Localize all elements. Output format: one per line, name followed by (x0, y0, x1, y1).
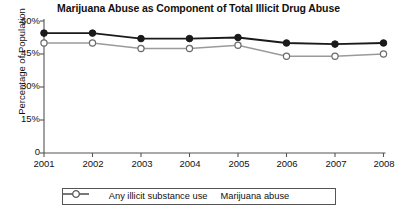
legend-label-marijuana-abuse: Marijuana abuse (220, 191, 289, 202)
x-tick-label-2005: 2005 (219, 158, 259, 169)
x-tick-label-2002: 2002 (73, 158, 113, 169)
legend-label-any-illicit-substance-use: Any illicit substance use (109, 191, 208, 202)
open-circle-icon (63, 189, 89, 199)
plot-area (0, 0, 397, 212)
chart-legend: Any illicit substance use Marijuana abus… (62, 188, 336, 205)
x-tick-label-2007: 2007 (316, 158, 356, 169)
legend-item-any-illicit-substance-use[interactable]: Any illicit substance use (109, 191, 208, 202)
x-tick-label-2004: 2004 (170, 158, 210, 169)
chart-container: Marijuana Abuse as Component of Total Il… (0, 0, 397, 212)
legend-item-marijuana-abuse[interactable]: Marijuana abuse (220, 191, 289, 202)
x-tick-label-2006: 2006 (267, 158, 307, 169)
x-tick-label-2003: 2003 (122, 158, 162, 169)
x-tick-label-2001: 2001 (24, 158, 64, 169)
x-tick-label-2008: 2008 (364, 158, 397, 169)
